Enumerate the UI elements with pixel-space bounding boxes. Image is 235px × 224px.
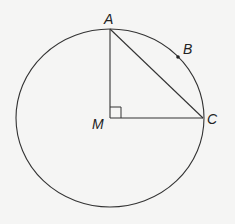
diagram-svg: A B C M bbox=[0, 0, 235, 224]
right-angle-marker bbox=[110, 107, 121, 118]
label-a: A bbox=[103, 11, 113, 27]
point-b-dot bbox=[176, 55, 180, 59]
label-c: C bbox=[207, 111, 218, 127]
label-b: B bbox=[183, 41, 192, 57]
geometry-diagram: A B C M bbox=[0, 0, 235, 224]
label-m: M bbox=[92, 116, 104, 132]
